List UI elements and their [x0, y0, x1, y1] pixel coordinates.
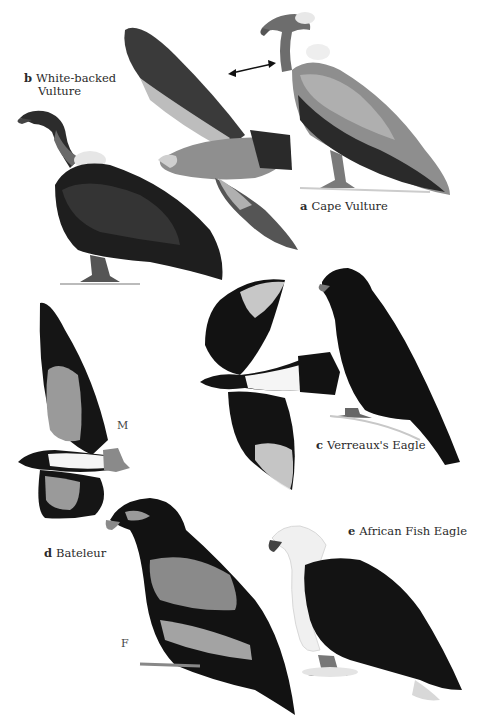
- illustration-plate: bWhite-backed Vulture aCape Vulture cVer…: [0, 0, 480, 726]
- bateleur-perched-female-illustration: [106, 498, 295, 715]
- species-letter: d: [44, 546, 52, 560]
- species-label-african-fish-eagle: eAfrican Fish Eagle: [348, 525, 467, 538]
- bird-illustrations: [0, 0, 480, 726]
- species-letter: c: [316, 438, 323, 452]
- female-marker: F: [121, 637, 129, 650]
- double-headed-arrow-icon: [228, 60, 276, 77]
- species-letter: a: [300, 199, 307, 213]
- african-fish-eagle-perched-illustration: [269, 526, 462, 701]
- species-label-verreauxs-eagle: cVerreaux's Eagle: [316, 439, 425, 452]
- species-name-line1: White-backed: [36, 71, 116, 85]
- species-label-cape-vulture: aCape Vulture: [300, 200, 388, 213]
- species-name-line2: Vulture: [24, 85, 116, 98]
- species-name: Cape Vulture: [311, 199, 387, 213]
- species-name: Bateleur: [56, 546, 106, 560]
- species-letter: b: [24, 71, 32, 85]
- species-label-white-backed-vulture: bWhite-backed Vulture: [24, 72, 116, 98]
- verreauxs-eagle-perched-illustration: [319, 268, 460, 465]
- bateleur-flying-male-illustration: [18, 303, 130, 519]
- verreauxs-eagle-flying-illustration: [200, 279, 340, 490]
- species-name: Verreaux's Eagle: [327, 438, 425, 452]
- species-label-bateleur: dBateleur: [44, 547, 106, 560]
- white-backed-vulture-perched-illustration: [17, 111, 222, 284]
- species-letter: e: [348, 524, 355, 538]
- male-marker: M: [117, 419, 128, 432]
- species-name: African Fish Eagle: [359, 524, 467, 538]
